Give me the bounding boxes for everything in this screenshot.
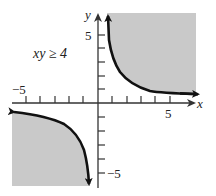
x-tick-label-5: 5 (165, 106, 172, 121)
y-ticks (98, 35, 105, 173)
shaded-region-quadrant-3 (12, 112, 90, 186)
inequality-graph: xy ≥ 4 y x 5 −5 −5 5 (0, 0, 216, 196)
hyperbola-branch-quadrant-1-right-arrow (180, 93, 198, 94)
x-tick-label-neg5: −5 (12, 82, 26, 97)
y-tick-label-5: 5 (85, 28, 92, 43)
inequality-label: xy ≥ 4 (32, 46, 67, 61)
x-axis-label: x (196, 96, 203, 111)
y-axis-label: y (83, 7, 91, 22)
y-tick-label-neg5: −5 (107, 166, 121, 181)
shaded-region-quadrant-1 (107, 13, 196, 94)
